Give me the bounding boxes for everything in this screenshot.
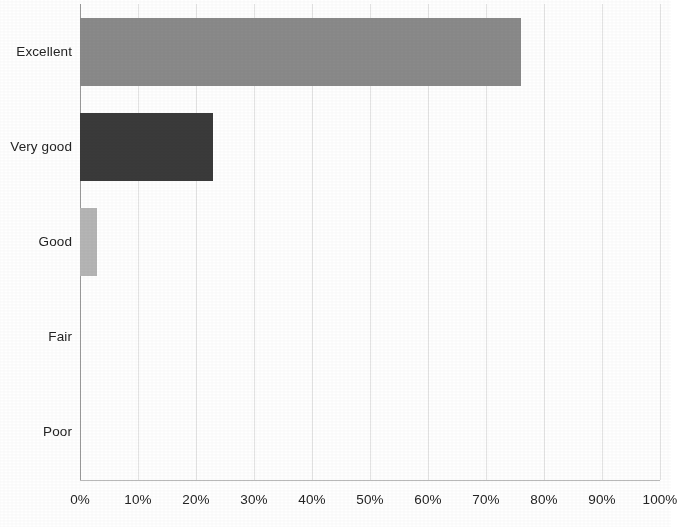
x-tick-label-100: 100% <box>630 492 681 508</box>
bar-band <box>80 385 660 480</box>
x-tick-label-0: 0% <box>50 492 110 508</box>
y-tick-label-fair: Fair <box>0 330 72 344</box>
y-tick-label-very-good: Very good <box>0 140 72 154</box>
x-tick-label-80: 80% <box>514 492 574 508</box>
x-tick-label-40: 40% <box>282 492 342 508</box>
x-tick-label-10: 10% <box>108 492 168 508</box>
x-tick-label-70: 70% <box>456 492 516 508</box>
x-tick-label-60: 60% <box>398 492 458 508</box>
gridline-100 <box>660 4 661 480</box>
y-axis-category-labels: ExcellentVery goodGoodFairPoor <box>0 4 72 480</box>
bar-band <box>80 4 660 99</box>
plot-area <box>80 4 660 480</box>
y-tick-label-good: Good <box>0 235 72 249</box>
bar-good[interactable] <box>80 208 97 276</box>
y-tick-label-poor: Poor <box>0 425 72 439</box>
bar-band <box>80 194 660 289</box>
x-tick-label-50: 50% <box>340 492 400 508</box>
y-tick-label-excellent: Excellent <box>0 45 72 59</box>
bar-very-good[interactable] <box>80 113 213 181</box>
bar-band <box>80 99 660 194</box>
bar-band <box>80 290 660 385</box>
x-tick-label-20: 20% <box>166 492 226 508</box>
x-axis-line <box>80 480 660 481</box>
x-axis-tick-labels: 0%10%20%30%40%50%60%70%80%90%100% <box>0 492 671 516</box>
x-tick-label-30: 30% <box>224 492 284 508</box>
x-tick-label-90: 90% <box>572 492 632 508</box>
bar-excellent[interactable] <box>80 18 521 86</box>
